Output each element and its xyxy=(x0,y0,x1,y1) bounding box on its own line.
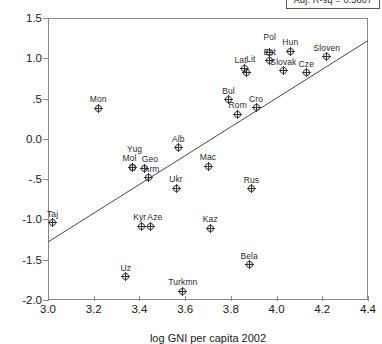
data-point-label: Uz xyxy=(120,263,131,273)
data-point-label: Mon xyxy=(90,94,107,104)
data-point-label: Kaz xyxy=(203,214,218,224)
data-point-label: Arm xyxy=(144,164,160,174)
data-point-label: Rus xyxy=(244,175,259,185)
data-point-label: Taj xyxy=(47,209,58,219)
x-tick-label: 3.6 xyxy=(177,303,193,315)
x-axis-title: log GNI per capita 2002 xyxy=(48,332,368,344)
data-point-label: Bela xyxy=(240,251,257,261)
data-point-label: Est xyxy=(263,47,276,57)
x-tick-label: 4.4 xyxy=(360,303,376,315)
x-tick-label: 3.8 xyxy=(223,303,239,315)
x-tick-mark xyxy=(368,296,369,301)
data-point-label: Bul xyxy=(222,86,235,96)
data-point-label: Mol xyxy=(123,153,137,163)
plot-data-area: TajMonUzYugMolGeoKyrAzeArmUkrAlbTurkmnMa… xyxy=(48,18,368,300)
data-point-label: Pol xyxy=(263,32,276,42)
x-tick-label: 4.0 xyxy=(269,303,285,315)
data-point-label: Turkmn xyxy=(168,277,197,287)
data-point-label: Hun xyxy=(282,37,298,47)
data-point-label: Lit xyxy=(246,54,255,64)
data-point-label: Rom xyxy=(229,100,247,110)
data-point-label: Alb xyxy=(172,134,185,144)
data-point-label: Ukr xyxy=(169,174,183,184)
data-point-label: Slovak xyxy=(270,57,296,67)
x-tick-label: 3.0 xyxy=(40,303,56,315)
data-point-label: Aze xyxy=(147,212,162,222)
x-tick-label: 4.2 xyxy=(314,303,330,315)
data-point-label: Kyr xyxy=(133,212,146,222)
data-point-label: Sloven xyxy=(314,43,341,53)
data-point-label: Mac xyxy=(200,152,216,162)
data-point-label: Cze xyxy=(299,59,314,69)
data-point-label: Geo xyxy=(142,154,158,164)
x-tick-label: 3.4 xyxy=(131,303,147,315)
data-point-label: Cro xyxy=(249,94,263,104)
x-tick-label: 3.2 xyxy=(86,303,102,315)
